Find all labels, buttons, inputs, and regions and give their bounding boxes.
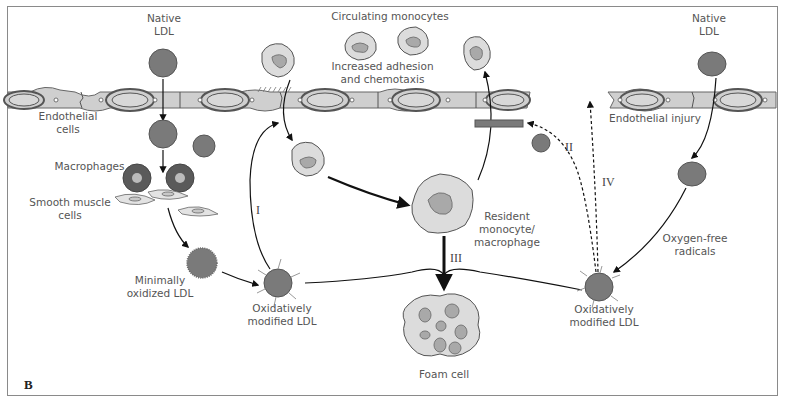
- label-foam-cell: Foam cell: [410, 368, 478, 381]
- pathway-label-ii: II: [565, 140, 573, 155]
- endothelium-left: [4, 87, 530, 111]
- ldl-particle: [532, 134, 550, 152]
- label-minimally-oxidized-ldl: Minimally oxidized LDL: [120, 274, 200, 300]
- label-endothelial-injury: Endothelial injury: [600, 112, 710, 125]
- migrating-monocyte-cell: [292, 142, 324, 176]
- label-oxidatively-modified-ldl-left: Oxidatively modified LDL: [238, 302, 326, 328]
- label-circulating-monocytes: Circulating monocytes: [325, 10, 455, 23]
- label-resident-monocyte: Resident monocyte/ macrophage: [468, 210, 546, 249]
- oxidized-ldl-right-particle: [577, 266, 620, 308]
- label-smooth-muscle-cells: Smooth muscle cells: [24, 196, 116, 222]
- label-native-ldl-right: Native LDL: [682, 12, 736, 38]
- smooth-muscle-cells: [115, 190, 218, 216]
- ldl-particle: [193, 135, 215, 157]
- damaged-endothelium-fragment: [475, 120, 523, 127]
- macrophage-cells: [123, 164, 194, 192]
- native-ldl-left-particle: [149, 49, 177, 77]
- label-increased-adhesion: Increased adhesion and chemotaxis: [320, 60, 445, 86]
- endothelium-right: [608, 89, 776, 111]
- native-ldl-right-particle: [698, 52, 726, 76]
- ldl-particle: [149, 120, 177, 148]
- resident-macrophage-cell: [412, 174, 473, 233]
- label-macrophages: Macrophages: [52, 160, 127, 173]
- pathway-label-iv: IV: [602, 175, 615, 190]
- pathway-label-i: I: [256, 203, 260, 218]
- label-endothelial-cells: Endothelial cells: [28, 110, 108, 136]
- oxidized-ldl-left-particle: [257, 259, 300, 306]
- panel-letter: B: [24, 377, 33, 393]
- label-oxidatively-modified-ldl-right: Oxidatively modified LDL: [560, 303, 648, 329]
- ldl-particle: [678, 162, 706, 186]
- foam-cell: [403, 294, 480, 357]
- label-native-ldl-left: Native LDL: [137, 12, 191, 38]
- label-oxygen-free-radicals: Oxygen-free radicals: [655, 232, 735, 258]
- pathway-label-iii: III: [450, 251, 462, 266]
